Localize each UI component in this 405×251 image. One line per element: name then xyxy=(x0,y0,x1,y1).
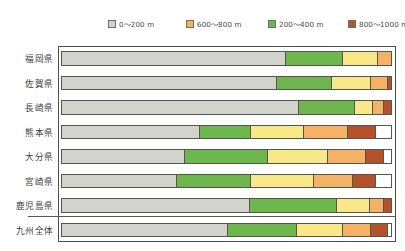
bar-segment xyxy=(286,52,344,65)
bar-segment xyxy=(228,224,297,237)
chart-row: 鹿児島県 xyxy=(0,193,405,218)
bar-segment xyxy=(251,126,304,139)
chart-row: 宮崎県 xyxy=(0,169,405,194)
bar-segment xyxy=(376,175,391,188)
bar-segment xyxy=(376,126,391,139)
bar-segment xyxy=(304,126,348,139)
stacked-bar xyxy=(61,198,392,213)
stacked-bar xyxy=(61,51,392,66)
legend-item-800-1000: 800～1000 m xyxy=(348,19,405,29)
bar-segment xyxy=(371,77,387,90)
row-label-宮崎県: 宮崎県 xyxy=(0,169,53,194)
bar-segment xyxy=(62,150,185,163)
bar-segment xyxy=(250,199,337,212)
bar-segment xyxy=(62,199,250,212)
bar-segment xyxy=(332,77,371,90)
bar-segment xyxy=(62,101,299,114)
bar-segment xyxy=(62,175,177,188)
legend-item-600-800: 600～800 m xyxy=(186,19,268,29)
bar-segment xyxy=(62,126,200,139)
row-label-鹿児島県: 鹿児島県 xyxy=(0,193,53,218)
row-label-長崎県: 長崎県 xyxy=(0,95,53,120)
chart-row: 熊本県 xyxy=(0,120,405,145)
row-label-佐賀県: 佐賀県 xyxy=(0,71,53,96)
stacked-bar xyxy=(61,149,392,164)
bar-segment xyxy=(371,224,387,237)
legend-item-200-400: 200～400 m xyxy=(268,19,348,29)
bar-segment xyxy=(384,150,391,163)
bar-segment xyxy=(384,101,391,114)
row-label-九州全体: 九州全体 xyxy=(0,218,53,243)
chart-row: 大分県 xyxy=(0,144,405,169)
bar-segment xyxy=(200,126,251,139)
bar-segment xyxy=(185,150,267,163)
chart-row: 福岡県 xyxy=(0,46,405,71)
bar-segment xyxy=(355,101,373,114)
bar-segment xyxy=(343,52,378,65)
chart-row: 長崎県 xyxy=(0,95,405,120)
stacked-bar xyxy=(61,76,392,91)
bar-segment xyxy=(348,126,376,139)
stacked-bar xyxy=(61,223,392,238)
bar-segment xyxy=(277,77,331,90)
bar-segment xyxy=(299,101,355,114)
bar-segment xyxy=(177,175,251,188)
legend-label-0-200: 0～200 m xyxy=(119,20,154,29)
legend-label-800-1000: 800～1000 m xyxy=(359,20,405,29)
row-label-福岡県: 福岡県 xyxy=(0,46,53,71)
row-label-大分県: 大分県 xyxy=(0,144,53,169)
chart-row: 佐賀県 xyxy=(0,71,405,96)
legend-item-0-200: 0～200 m xyxy=(108,19,186,29)
legend: 0～200 m 600～800 m 200～400 m 800～1000 m 4… xyxy=(108,19,348,29)
stacked-bar xyxy=(61,174,392,189)
legend-label-200-400: 200～400 m xyxy=(279,20,324,29)
bar-segment xyxy=(297,224,343,237)
bar-segment xyxy=(62,224,228,237)
bar-segment xyxy=(268,150,329,163)
row-label-熊本県: 熊本県 xyxy=(0,120,53,145)
bar-segment xyxy=(366,150,384,163)
legend-swatch-0-200 xyxy=(108,20,116,28)
legend-swatch-200-400 xyxy=(268,20,276,28)
legend-swatch-600-800 xyxy=(186,20,194,28)
bar-segment xyxy=(328,150,366,163)
bar-segment xyxy=(314,175,353,188)
bar-segment xyxy=(62,52,286,65)
bar-segment xyxy=(370,199,385,212)
stacked-bar xyxy=(61,100,392,115)
legend-label-600-800: 600～800 m xyxy=(197,20,242,29)
stacked-bar xyxy=(61,125,392,140)
bar-segment xyxy=(353,175,376,188)
stacked-bar-rows: 福岡県佐賀県長崎県熊本県大分県宮崎県鹿児島県九州全体 xyxy=(0,46,405,242)
bar-segment xyxy=(337,199,370,212)
bar-segment xyxy=(388,224,391,237)
bar-segment xyxy=(384,199,391,212)
bar-segment xyxy=(62,77,277,90)
bar-segment xyxy=(343,224,371,237)
bar-segment xyxy=(251,175,314,188)
bar-segment xyxy=(378,52,391,65)
bar-segment xyxy=(373,101,385,114)
chart-row: 九州全体 xyxy=(0,218,405,243)
bar-segment xyxy=(388,77,391,90)
legend-swatch-800-1000 xyxy=(348,20,356,28)
